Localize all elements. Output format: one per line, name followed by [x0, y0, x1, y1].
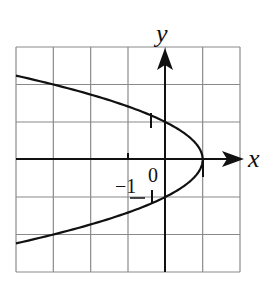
tick-label-x-neg1: −1	[115, 175, 136, 197]
origin-label: 0	[148, 164, 158, 186]
parabola-graph: x y 0 −1	[0, 0, 275, 288]
x-axis-label: x	[247, 144, 260, 173]
y-axis-label: y	[153, 19, 168, 48]
